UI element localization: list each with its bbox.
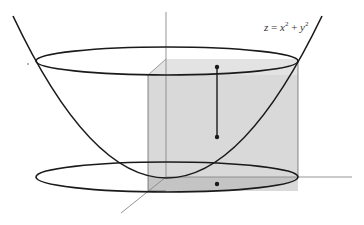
equation-label: z = x2 + y2: [263, 20, 309, 33]
box-top-face: [148, 59, 298, 75]
plane-point: [215, 182, 219, 186]
box-front-face: [148, 75, 298, 191]
paraboloid-diagram: z = x2 + y2: [0, 0, 364, 225]
shaded-region: [148, 59, 298, 192]
diagram-canvas: z = x2 + y2: [0, 0, 364, 225]
x-axis: [121, 177, 166, 213]
segment-bottom-point: [215, 135, 219, 139]
segment-top-point: [215, 65, 219, 69]
stray-mark: [27, 63, 29, 65]
